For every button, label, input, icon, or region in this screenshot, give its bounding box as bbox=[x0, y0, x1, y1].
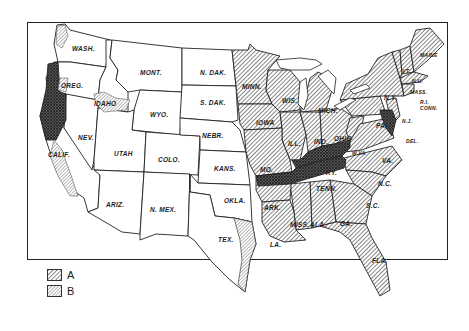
label-ill: ILL. bbox=[288, 140, 301, 147]
label-wis: WIS. bbox=[282, 97, 297, 104]
label-pa: PA. bbox=[376, 122, 387, 129]
label-conn: CONN. bbox=[420, 105, 438, 111]
lake-superior bbox=[276, 58, 322, 70]
label-iowa: IOWA bbox=[256, 119, 275, 126]
label-mont: MONT. bbox=[140, 69, 162, 76]
state-iowa bbox=[238, 104, 282, 130]
label-nmex: N. MEX. bbox=[150, 206, 176, 213]
label-wash: WASH. bbox=[72, 45, 95, 52]
label-ark: ARK. bbox=[263, 204, 281, 211]
hatch-b-swatch-icon bbox=[47, 285, 62, 297]
label-ala: ALA. bbox=[309, 221, 326, 228]
label-nh: N.H. bbox=[412, 78, 423, 84]
label-nc: N.C. bbox=[378, 180, 392, 187]
label-calif: CALIF. bbox=[48, 151, 70, 158]
map-legend: A B bbox=[47, 267, 74, 299]
label-ariz: ARIZ. bbox=[105, 201, 124, 208]
label-ny: N.Y. bbox=[384, 94, 397, 101]
label-nebr: NEBR. bbox=[202, 132, 224, 139]
state-colo bbox=[144, 132, 200, 175]
hatch-a-swatch-icon bbox=[47, 269, 62, 281]
label-miss: MISS. bbox=[290, 221, 309, 228]
label-va: VA. bbox=[382, 157, 393, 164]
label-okla: OKLA. bbox=[224, 197, 246, 204]
legend-item-b: B bbox=[47, 283, 74, 299]
label-nev: NEV. bbox=[78, 134, 94, 141]
label-ga: GA. bbox=[340, 220, 352, 227]
label-mo: MO. bbox=[260, 166, 273, 173]
label-tex: TEX. bbox=[218, 236, 234, 243]
label-utah: UTAH bbox=[114, 150, 133, 157]
label-mich: MICH. bbox=[318, 107, 338, 114]
legend-label-b: B bbox=[67, 285, 74, 297]
legend-item-a: A bbox=[47, 267, 74, 283]
label-kans: KANS. bbox=[214, 165, 236, 172]
label-minn: MINN. bbox=[242, 83, 262, 90]
label-del: DEL. bbox=[406, 138, 419, 144]
label-idaho: IDAHO bbox=[94, 100, 116, 107]
label-ind: IND. bbox=[314, 138, 328, 145]
label-maine: MAINE bbox=[420, 52, 438, 58]
label-wyo: WYO. bbox=[150, 111, 169, 118]
state-mont bbox=[110, 40, 182, 92]
label-ndak: N. DAK. bbox=[200, 69, 226, 76]
label-ohio: OHIO bbox=[334, 135, 352, 142]
label-fla: FLA. bbox=[372, 257, 388, 264]
label-ky: KY. bbox=[326, 169, 337, 176]
label-colo: COLO. bbox=[158, 156, 180, 163]
label-sc: S.C. bbox=[366, 202, 380, 209]
label-la: LA. bbox=[270, 241, 281, 248]
label-wva: W.VA. bbox=[352, 150, 367, 156]
label-mass: MASS. bbox=[410, 89, 427, 95]
label-oreg: OREG. bbox=[61, 82, 83, 89]
state-maine bbox=[410, 28, 444, 72]
legend-label-a: A bbox=[67, 269, 74, 281]
label-tenn: TENN. bbox=[316, 185, 337, 192]
label-sdak: S. DAK. bbox=[200, 99, 226, 106]
state-ndak bbox=[182, 48, 236, 86]
label-nj: N.J. bbox=[402, 118, 412, 124]
label-vt: VT. bbox=[402, 68, 410, 74]
